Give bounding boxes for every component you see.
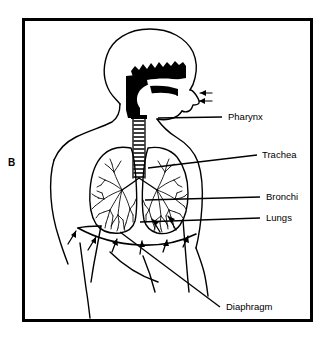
figure-canvas: B	[0, 0, 333, 345]
label-pharynx: Pharynx	[228, 111, 263, 122]
respiratory-system-diagram: B	[0, 0, 333, 345]
label-diaphragm: Diaphragm	[226, 301, 273, 312]
background	[0, 0, 333, 345]
label-bronchi: Bronchi	[266, 191, 298, 202]
panel-letter: B	[8, 157, 15, 168]
label-lungs: Lungs	[266, 212, 292, 223]
label-trachea: Trachea	[262, 149, 297, 160]
